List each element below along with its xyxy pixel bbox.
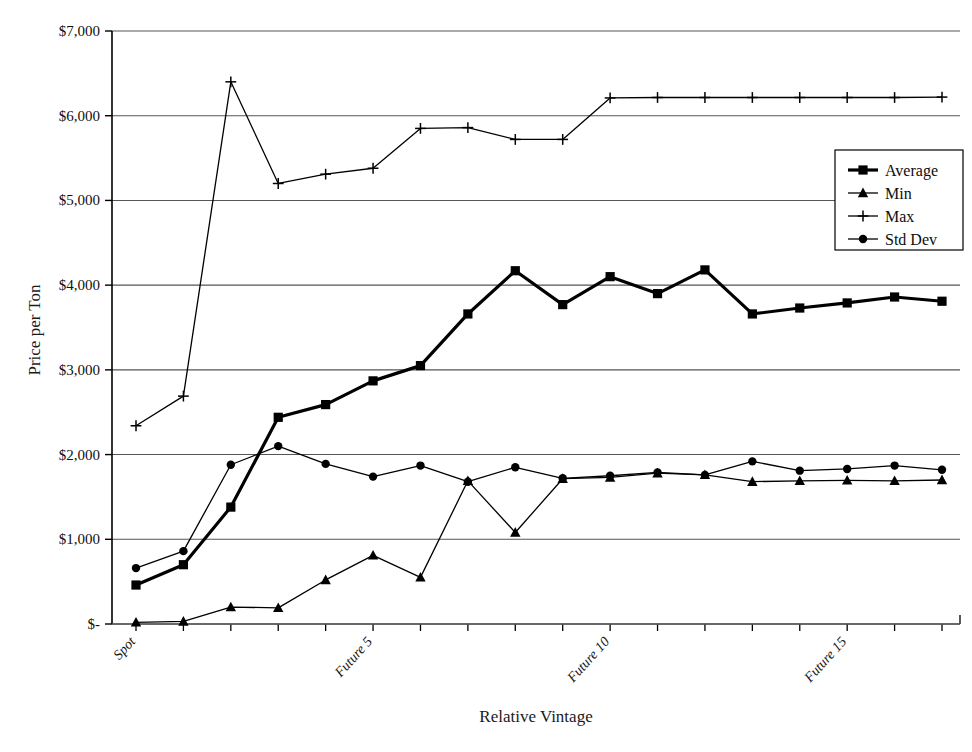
y-tick-label: $- [88, 616, 101, 632]
marker-circle [132, 564, 140, 572]
chart-background [0, 0, 972, 752]
marker-circle [416, 461, 424, 469]
marker-circle [559, 474, 567, 482]
marker-square [274, 413, 283, 422]
marker-square [890, 292, 899, 301]
marker-circle [321, 460, 329, 468]
y-tick-label: $5,000 [59, 192, 100, 208]
y-tick-label: $1,000 [59, 531, 100, 547]
marker-square [606, 272, 615, 281]
marker-square [321, 400, 330, 409]
marker-circle [179, 547, 187, 555]
marker-square [748, 309, 757, 318]
marker-circle [748, 457, 756, 465]
chart-canvas: $7,000$6,000$5,000$4,000$3,000$2,000$1,0… [0, 0, 972, 752]
marker-circle [938, 466, 946, 474]
legend-label: Average [885, 162, 938, 180]
marker-circle [701, 471, 709, 479]
y-axis-title: Price per Ton [25, 284, 44, 376]
marker-square [511, 266, 520, 275]
y-tick-label: $7,000 [59, 23, 100, 39]
y-tick-label: $6,000 [59, 108, 100, 124]
marker-square [463, 309, 472, 318]
marker-square [795, 303, 804, 312]
x-axis-title: Relative Vintage [479, 707, 592, 726]
marker-square [843, 298, 852, 307]
legend-label: Std Dev [885, 231, 937, 248]
marker-square [653, 289, 662, 298]
legend-label: Max [885, 208, 914, 225]
legend-label: Min [885, 185, 912, 202]
marker-square [131, 580, 140, 589]
marker-square [179, 560, 188, 569]
marker-square [416, 361, 425, 370]
marker-circle [890, 461, 898, 469]
chart-legend[interactable]: AverageMinMaxStd Dev [835, 150, 963, 250]
marker-circle [227, 461, 235, 469]
marker-circle [653, 468, 661, 476]
marker-circle [796, 466, 804, 474]
marker-square [226, 502, 235, 511]
marker-circle [464, 477, 472, 485]
marker-circle [274, 442, 282, 450]
marker-square [937, 297, 946, 306]
marker-square [558, 300, 567, 309]
marker-circle [369, 472, 377, 480]
marker-square [368, 376, 377, 385]
y-tick-label: $4,000 [59, 277, 100, 293]
price-per-ton-line-chart: $7,000$6,000$5,000$4,000$3,000$2,000$1,0… [0, 0, 972, 752]
marker-circle [511, 463, 519, 471]
marker-square [858, 165, 867, 174]
marker-square [700, 265, 709, 274]
marker-circle [859, 235, 867, 243]
marker-circle [843, 465, 851, 473]
y-tick-label: $3,000 [59, 362, 100, 378]
y-tick-label: $2,000 [59, 447, 100, 463]
marker-circle [606, 472, 614, 480]
